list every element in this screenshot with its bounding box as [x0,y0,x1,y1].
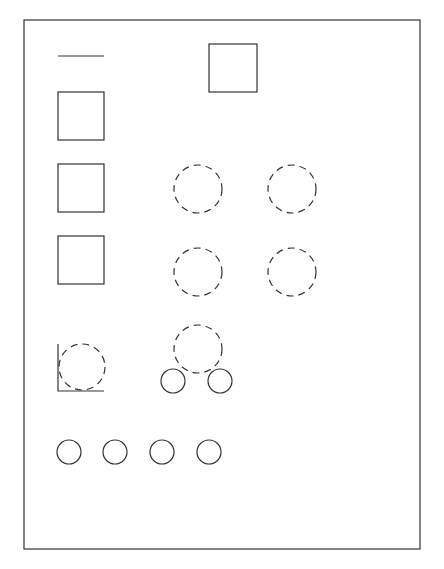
dashed-circle [174,248,222,296]
solid-circle [57,440,81,464]
square [58,92,104,140]
solid-circle [197,440,221,464]
solid-circle [150,440,174,464]
dashed-circle [174,165,222,213]
dashed-circle [174,325,222,373]
dashed-circle [268,165,316,213]
square [58,164,104,212]
solid-circle [208,369,232,393]
diagram-canvas [0,0,444,569]
solid-circle [161,369,185,393]
square [209,44,257,92]
solid-circle [103,440,127,464]
dashed-circle [268,248,316,296]
square [58,236,104,284]
dashed-circle [59,344,105,390]
